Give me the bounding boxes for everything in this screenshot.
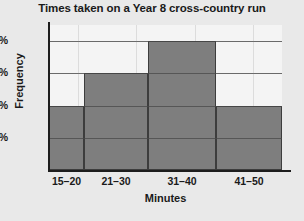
y-axis-title: Frequency [13, 31, 25, 131]
bar-series [49, 25, 282, 170]
histogram-figure: Times taken on a Year 8 cross-country ru… [0, 0, 304, 221]
y-axis-line [48, 22, 50, 172]
plot-area [49, 25, 282, 170]
bar-15–20[interactable] [49, 106, 84, 170]
y-tick-15%: 15% [0, 66, 8, 78]
chart-title: Times taken on a Year 8 cross-country ru… [0, 2, 304, 14]
bar-31–40[interactable] [148, 41, 216, 170]
y-tick-10%: 10% [0, 99, 8, 111]
x-axis-line [48, 170, 291, 172]
x-tick-41–50: 41–50 [209, 175, 289, 187]
bar-21–30[interactable] [84, 73, 148, 170]
x-axis-title: Minutes [49, 192, 282, 204]
y-tick-20%: 20% [0, 34, 8, 46]
y-tick-5%: 5% [0, 131, 8, 143]
bar-41–50[interactable] [216, 106, 282, 170]
